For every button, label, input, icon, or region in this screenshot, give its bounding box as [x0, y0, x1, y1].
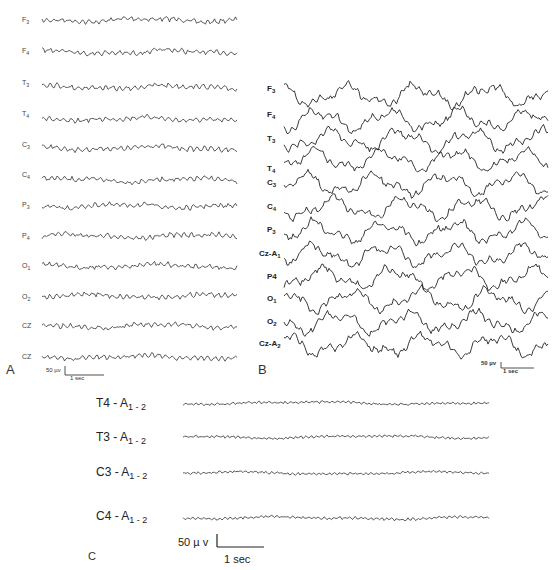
eeg-traces — [0, 0, 554, 570]
